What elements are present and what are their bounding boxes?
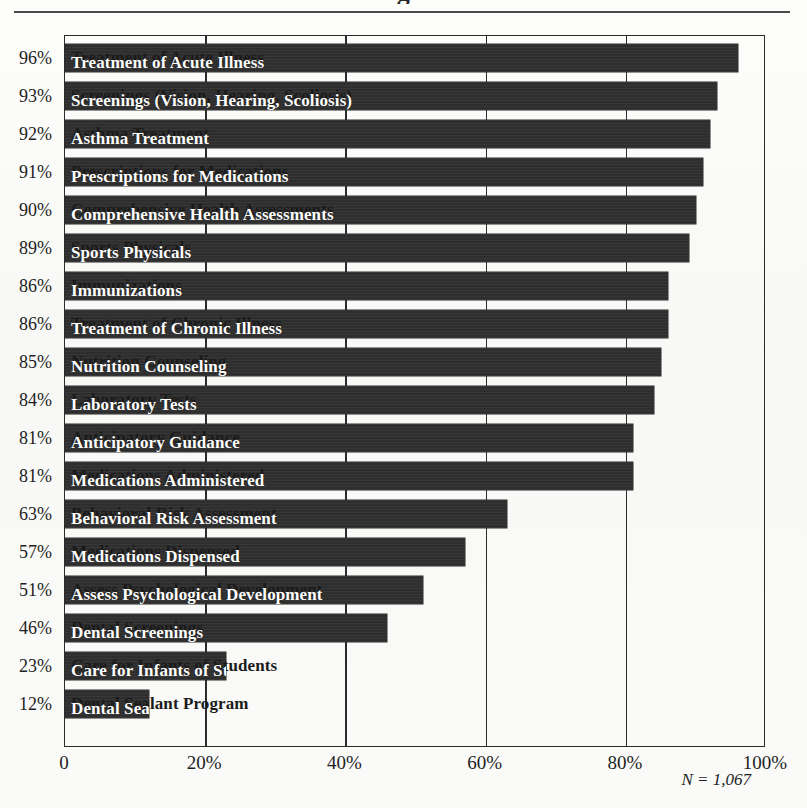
bar-label: Screenings (Vision, Hearing, Scoliosis): [71, 87, 352, 110]
value-label: 23%: [0, 647, 58, 685]
bar-label: Asthma Treatment: [71, 125, 209, 148]
table-row: Assess Psychological DevelopmentAssess P…: [64, 571, 765, 609]
value-label: 12%: [0, 685, 58, 723]
bar-label-clip: Asthma Treatment: [65, 120, 710, 148]
bar-label-clip: Comprehensive Health Assessments: [65, 196, 696, 224]
table-row: Medications AdministeredMedications Admi…: [64, 457, 765, 495]
value-label: 81%: [0, 419, 58, 457]
bar-label: Comprehensive Health Assessments: [71, 201, 334, 224]
table-row: Dental ScreeningsDental Screenings: [64, 609, 765, 647]
value-label: 86%: [0, 267, 58, 305]
table-row: Treatment of Chronic IllnessTreatment of…: [64, 305, 765, 343]
value-label: 84%: [0, 381, 58, 419]
bar-label-clip: Dental Sealant Program: [65, 690, 149, 718]
table-row: Prescriptions for MedicationsPrescriptio…: [64, 153, 765, 191]
bar-label-clip: Prescriptions for Medications: [65, 158, 703, 186]
value-label-column: 96%93%92%91%90%89%86%86%85%84%81%81%63%5…: [0, 35, 58, 747]
table-row: Anticipatory GuidanceAnticipatory Guidan…: [64, 419, 765, 457]
bar-label-clip: Care for Infants of Students: [65, 652, 226, 680]
table-row: ImmunizationsImmunizations: [64, 267, 765, 305]
table-row: Treatment of Acute IllnessTreatment of A…: [64, 39, 765, 77]
value-label: 86%: [0, 305, 58, 343]
bar-label: Laboratory Tests: [71, 391, 197, 414]
bar-label-clip: Assess Psychological Development: [65, 576, 423, 604]
x-tick-label-60: 60%: [467, 752, 502, 774]
table-row: Screenings (Vision, Hearing, Scoliosis)S…: [64, 77, 765, 115]
x-tick-label-0: 0: [59, 752, 69, 774]
table-row: Behavioral Risk AssessmentBehavioral Ris…: [64, 495, 765, 533]
value-label: 93%: [0, 77, 58, 115]
table-row: Comprehensive Health AssessmentsComprehe…: [64, 191, 765, 229]
bar-label: Anticipatory Guidance: [71, 429, 240, 452]
bar-label: Care for Infants of Students: [71, 657, 226, 680]
bar-label-clip: Immunizations: [65, 272, 668, 300]
table-row: Sports PhysicalsSports Physicals: [64, 229, 765, 267]
bar-label-clip: Treatment of Chronic Illness: [65, 310, 668, 338]
bar-label: Prescriptions for Medications: [71, 163, 289, 186]
table-row: Asthma TreatmentAsthma Treatment: [64, 115, 765, 153]
x-tick-label-80: 80%: [607, 752, 642, 774]
value-label: 51%: [0, 571, 58, 609]
bar-label-clip: Treatment of Acute Illness: [65, 44, 738, 72]
sample-size-annotation: N = 1,067: [681, 770, 751, 790]
bar-label-clip: Dental Screenings: [65, 614, 387, 642]
bar-label: Treatment of Acute Illness: [71, 49, 264, 72]
horizontal-bar-chart: 96%93%92%91%90%89%86%86%85%84%81%81%63%5…: [0, 0, 807, 808]
bar-label: Medications Administered: [71, 467, 264, 490]
bar-label: Sports Physicals: [71, 239, 191, 262]
x-tick-label-40: 40%: [327, 752, 362, 774]
table-row: Medications DispensedMedications Dispens…: [64, 533, 765, 571]
bar-label-clip: Sports Physicals: [65, 234, 689, 262]
value-label: 89%: [0, 229, 58, 267]
value-label: 91%: [0, 153, 58, 191]
bar-label-clip: Screenings (Vision, Hearing, Scoliosis): [65, 82, 717, 110]
bar-label: Treatment of Chronic Illness: [71, 315, 282, 338]
bar-label: Assess Psychological Development: [71, 581, 323, 604]
bar-label-clip: Medications Dispensed: [65, 538, 465, 566]
value-label: 81%: [0, 457, 58, 495]
x-tick-label-20: 20%: [187, 752, 222, 774]
bar-label: Dental Screenings: [71, 619, 203, 642]
value-label: 85%: [0, 343, 58, 381]
value-label: 96%: [0, 39, 58, 77]
table-row: Laboratory TestsLaboratory Tests: [64, 381, 765, 419]
bar-label: Dental Sealant Program: [71, 695, 149, 718]
bar-label-clip: Medications Administered: [65, 462, 633, 490]
bar-rows: Treatment of Acute IllnessTreatment of A…: [64, 35, 765, 747]
bar-label-clip: Laboratory Tests: [65, 386, 654, 414]
bar-label: Nutrition Counseling: [71, 353, 227, 376]
value-label: 63%: [0, 495, 58, 533]
bar-label-clip: Anticipatory Guidance: [65, 424, 633, 452]
bar-label-clip: Nutrition Counseling: [65, 348, 661, 376]
bar-label: Medications Dispensed: [71, 543, 240, 566]
bar-label-clip: Behavioral Risk Assessment: [65, 500, 507, 528]
table-row: Nutrition CounselingNutrition Counseling: [64, 343, 765, 381]
bar-label: Behavioral Risk Assessment: [71, 505, 277, 528]
value-label: 92%: [0, 115, 58, 153]
value-label: 90%: [0, 191, 58, 229]
value-label: 57%: [0, 533, 58, 571]
value-label: 46%: [0, 609, 58, 647]
table-row: Dental Sealant ProgramDental Sealant Pro…: [64, 685, 765, 723]
bar-label: Immunizations: [71, 277, 182, 300]
table-row: Care for Infants of StudentsCare for Inf…: [64, 647, 765, 685]
